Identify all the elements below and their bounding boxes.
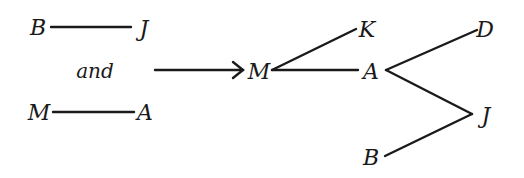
node-a-right: A	[363, 61, 379, 83]
node-d-right: D	[476, 19, 494, 41]
diagram-lines	[0, 0, 524, 178]
node-b-right: B	[363, 147, 379, 169]
edge-a-j	[386, 70, 472, 114]
node-a-left: A	[137, 102, 153, 124]
node-j-right: J	[482, 105, 491, 127]
node-b-left: B	[30, 17, 46, 39]
node-m-left: M	[28, 102, 51, 124]
edge-b-j	[385, 114, 472, 156]
and-label: and	[76, 61, 114, 81]
node-j-left: J	[140, 18, 149, 40]
node-k-right: K	[359, 19, 375, 41]
edge-a-d	[386, 30, 477, 70]
node-m-right: M	[248, 61, 271, 83]
diagram-canvas: B J and M A M K A D J B	[0, 0, 524, 178]
edge-m-k	[272, 29, 356, 70]
